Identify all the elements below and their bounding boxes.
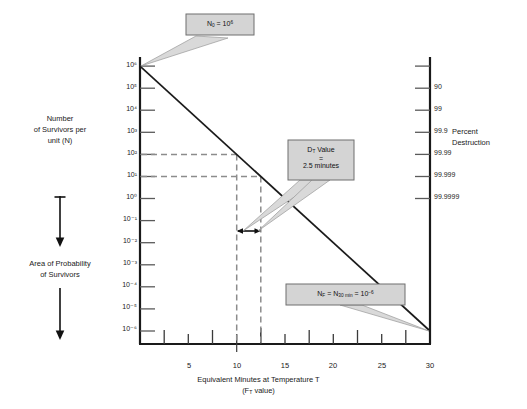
y-axis-title-line2: of Survivors per [10, 125, 110, 136]
d-value-callout-text: DT Value = 2.5 minutes [288, 146, 354, 171]
probability-area-label: Area of Probability of Survivors [7, 259, 113, 281]
thermal-death-curve-figure: 10⁶ 10⁵ 10⁴ 10³ 10² 10¹ 10⁰ 10⁻¹ 10⁻² 10… [0, 0, 527, 409]
right-axis-title-line1: Percent [452, 127, 518, 138]
n0-exponent: 6 [230, 20, 233, 25]
x-tick-label: 25 [372, 361, 392, 370]
chart-graphics [0, 0, 527, 409]
right-tick-label: 99.9999 [434, 193, 459, 200]
x-tick-label: 10 [227, 361, 247, 370]
right-axis-title: Percent Destruction [452, 127, 518, 149]
y-tick-label: 10³ [111, 127, 137, 134]
y-axis-title: Number of Survivors per unit (N) [10, 114, 110, 147]
y-axis-right-ticks [415, 66, 430, 198]
x-axis-ticks [164, 328, 406, 344]
d-value-word: Value [315, 146, 334, 153]
probability-area-line1: Area of Probability [7, 259, 113, 270]
y-tick-label: 10⁵ [111, 83, 137, 90]
y-tick-label: 10⁻⁴ [111, 281, 137, 289]
y-axis-left-ticks [140, 66, 155, 331]
x-tick-label: 15 [275, 361, 295, 370]
y-axis-title-line3: unit (N) [10, 136, 110, 147]
nf-equals-2: = 10 [353, 290, 369, 297]
n0-callout-text: N0 = 106 [186, 20, 254, 29]
right-tick-label: 99.999 [434, 171, 455, 178]
nf-exponent: −6 [368, 290, 373, 295]
y-tick-label: 10⁶ [111, 61, 137, 68]
right-axis-title-line2: Destruction [452, 138, 518, 149]
x-tick-label: 20 [323, 361, 343, 370]
nf-callout-text: NF = N30 min = 10−6 [286, 290, 405, 299]
d-value-span-arrow [237, 228, 261, 233]
y-tick-label: 10⁻¹ [111, 215, 137, 223]
y-tick-label: 10⁴ [111, 105, 137, 112]
nf-equals-1: = N [325, 290, 338, 297]
y-tick-label: 10⁻² [111, 237, 137, 245]
right-tick-label: 90 [434, 83, 442, 90]
y-tick-label: 10⁻⁵ [111, 303, 137, 311]
d-value-line1: DT Value [288, 146, 354, 155]
x-axis-subtitle-suffix: value) [252, 386, 275, 395]
probability-arrow-upper [55, 196, 66, 247]
d-value-line3: 2.5 minutes [288, 162, 354, 171]
x-axis-title: Equivalent Minutes at Temperature T (FT … [0, 374, 527, 397]
right-tick-label: 99 [434, 105, 442, 112]
probability-arrow-lower [56, 288, 65, 340]
nf-time-subscript: 30 min [338, 293, 352, 298]
x-tick-label: 30 [420, 361, 440, 370]
probability-area-line2: of Survivors [7, 270, 113, 281]
x-axis-title-main: Equivalent Minutes at Temperature T [0, 374, 527, 385]
y-tick-label: 10⁰ [111, 193, 137, 201]
x-tick-label: 5 [179, 361, 199, 370]
n0-equals: = 10 [215, 20, 231, 27]
right-tick-label: 99.9 [434, 127, 448, 134]
y-tick-label: 10⁻⁶ [111, 325, 137, 333]
n0-callout-leader [141, 36, 228, 66]
x-axis-title-sub: (FT value) [0, 385, 527, 397]
y-tick-label: 10⁻³ [111, 259, 137, 267]
right-tick-label: 99.99 [434, 149, 452, 156]
y-tick-label: 10² [111, 149, 137, 156]
y-tick-label: 10¹ [111, 171, 137, 178]
y-axis-title-line1: Number [10, 114, 110, 125]
d-value-line2: = [288, 155, 354, 162]
